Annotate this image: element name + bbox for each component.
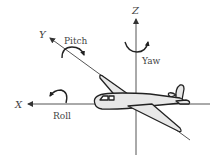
x-axis-label: X (14, 99, 23, 110)
aircraft-axes-diagram: Z Yaw Y Pitch X Roll (0, 0, 221, 163)
airplane-icon (94, 75, 189, 131)
pitch-arrow-icon (62, 47, 84, 58)
z-axis-label: Z (131, 5, 140, 16)
pitch-label: Pitch (64, 36, 88, 46)
diagram-canvas: Z Yaw Y Pitch X Roll (0, 0, 221, 163)
y-axis-label: Y (39, 29, 47, 40)
roll-label: Roll (53, 111, 71, 121)
roll-arrow-icon (50, 90, 67, 103)
yaw-label: Yaw (141, 56, 161, 66)
